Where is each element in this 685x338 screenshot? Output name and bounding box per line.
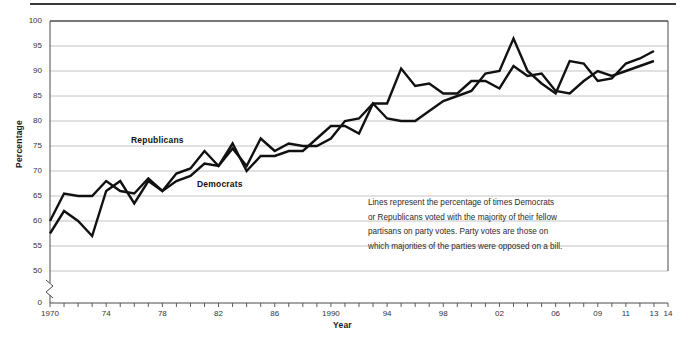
x-tick-label-1978: 78	[142, 309, 182, 318]
series-label-republicans: Republicans	[131, 135, 184, 145]
x-tick-label-1998: 98	[423, 309, 463, 318]
note-line-4: which majorities of the parties were opp…	[368, 240, 668, 255]
y-tick-label-80: 80	[16, 116, 42, 125]
y-tick-label-95: 95	[16, 41, 42, 50]
y-tick-label-55: 55	[16, 241, 42, 250]
series-label-democrats: Democrats	[197, 179, 243, 189]
note-line-3: partisans on party votes. Party votes ar…	[368, 225, 668, 240]
x-tick-label-2002: 02	[479, 309, 519, 318]
x-tick-label-1982: 82	[199, 309, 239, 318]
chart-figure: Percentage Year 505560657075808590951000…	[0, 0, 685, 338]
note-line-2: or Republicans voted with the majority o…	[368, 211, 668, 226]
x-tick-label-1990: 1990	[311, 309, 351, 318]
y-tick-label-75: 75	[16, 141, 42, 150]
x-tick-label-1974: 74	[86, 309, 126, 318]
methodology-note: Lines represent the percentage of times …	[368, 196, 668, 254]
y-tick-label-90: 90	[16, 66, 42, 75]
x-tick-label-2006: 06	[536, 309, 576, 318]
note-line-1: Lines represent the percentage of times …	[368, 196, 668, 211]
x-axis-title: Year	[0, 320, 685, 330]
y-tick-label-70: 70	[16, 166, 42, 175]
y-tick-label-85: 85	[16, 91, 42, 100]
x-tick-label-1986: 86	[255, 309, 295, 318]
x-tick-label-1970: 1970	[30, 309, 70, 318]
y-tick-label-100: 100	[16, 16, 42, 25]
x-tick-label-1994: 94	[367, 309, 407, 318]
y-tick-label-zero: 0	[16, 298, 42, 307]
y-tick-label-50: 50	[16, 266, 42, 275]
y-tick-label-65: 65	[16, 191, 42, 200]
y-tick-label-60: 60	[16, 216, 42, 225]
x-tick-label-2014: 14	[648, 309, 685, 318]
line-chart-plot	[0, 0, 685, 338]
